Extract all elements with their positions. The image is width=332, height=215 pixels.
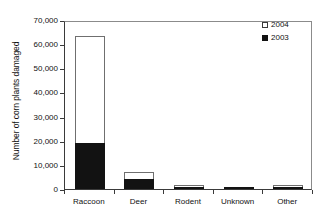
y-axis-tick-label: 0: [14, 186, 58, 194]
x-axis-category-label: Deer: [114, 197, 164, 206]
x-axis-category-label: Unknown: [213, 197, 263, 206]
x-axis-tick-mark: [114, 190, 115, 194]
x-axis-tick-mark: [64, 190, 65, 194]
bar-segment-2004: [124, 172, 154, 179]
bar-segment-2003: [124, 179, 154, 189]
y-axis-tick-label: 70,000: [14, 17, 58, 25]
y-axis-tick-label: 20,000: [14, 138, 58, 146]
plot-area: [64, 21, 312, 190]
bars-container: [65, 22, 311, 189]
bar-segment-2003: [273, 187, 303, 189]
bar-group: [75, 36, 105, 189]
x-axis-tick-mark: [213, 190, 214, 194]
filled-square-icon: [262, 35, 268, 41]
x-axis-tick-mark: [312, 190, 313, 194]
y-axis-tick-labels: 010,00020,00030,00040,00050,00060,00070,…: [14, 0, 58, 215]
open-square-icon: [262, 22, 268, 28]
bar-group: [174, 185, 204, 189]
x-axis-category-label: Other: [262, 197, 312, 206]
x-axis-category-label: Rodent: [163, 197, 213, 206]
bar-segment-2003: [174, 187, 204, 189]
bar-segment-2004: [75, 36, 105, 143]
bar-group: [124, 172, 154, 189]
bar-segment-2003: [75, 143, 105, 189]
y-axis-tick-label: 40,000: [14, 89, 58, 97]
x-axis-tick-mark: [163, 190, 164, 194]
chart-legend: 20042003: [262, 19, 289, 45]
legend-label: 2004: [271, 21, 289, 29]
bar-chart: Number of corn plants damaged 010,00020,…: [0, 0, 332, 215]
bar-segment-2003: [224, 187, 254, 189]
x-axis-tick-mark: [262, 190, 263, 194]
x-axis-category-label: Raccoon: [64, 197, 114, 206]
legend-item: 2004: [262, 19, 289, 30]
bar-group: [224, 187, 254, 189]
legend-item: 2003: [262, 32, 289, 43]
y-axis-tick-label: 50,000: [14, 65, 58, 73]
y-axis-tick-label: 30,000: [14, 114, 58, 122]
bar-group: [273, 185, 303, 189]
y-axis-tick-label: 60,000: [14, 41, 58, 49]
legend-label: 2003: [271, 34, 289, 42]
y-axis-tick-label: 10,000: [14, 162, 58, 170]
